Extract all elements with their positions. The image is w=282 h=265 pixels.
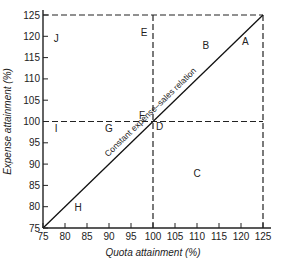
x-tick-label: 125 [255, 231, 272, 242]
x-tick-label: 110 [189, 231, 205, 242]
x-tick-label: 100 [145, 231, 162, 242]
y-tick-label: 110 [24, 73, 40, 84]
x-tick-label: 120 [233, 231, 250, 242]
region-label-b: B [202, 40, 209, 51]
x-axis-title: Quota attainment (%) [105, 247, 200, 258]
x-tick-label: 115 [211, 231, 227, 242]
y-tick-label: 95 [29, 137, 41, 148]
y-tick-label: 125 [23, 10, 40, 21]
x-tick-label: 95 [125, 231, 137, 242]
region-label-d: D [156, 121, 163, 132]
region-label-g: G [105, 123, 113, 134]
y-tick-label: 120 [23, 31, 40, 42]
diagonal-annotation: Constant expense–sales relation [103, 65, 199, 158]
y-tick-label: 100 [23, 116, 40, 127]
region-label-i: I [55, 123, 58, 134]
y-tick-label: 80 [29, 201, 41, 212]
x-tick-label: 90 [103, 231, 115, 242]
region-label-a: A [242, 36, 249, 47]
x-tick-label: 105 [167, 231, 184, 242]
y-tick-label: 85 [29, 180, 41, 191]
x-axis-ticks: 7580859095100105110115120125 [37, 223, 271, 242]
y-tick-label: 90 [29, 159, 41, 170]
y-axis-title: Expense attainment (%) [2, 68, 13, 175]
x-tick-label: 80 [59, 231, 71, 242]
y-tick-label: 75 [29, 223, 41, 234]
y-tick-label: 105 [23, 95, 40, 106]
region-label-e: E [141, 27, 148, 38]
y-axis-ticks: 7580859095100105110115120125 [23, 10, 48, 234]
chart: 7580859095100105110115120125 75808590951… [0, 0, 282, 265]
x-tick-label: 85 [81, 231, 93, 242]
region-label-c: C [193, 168, 200, 179]
y-tick-label: 115 [24, 52, 40, 63]
region-label-h: H [75, 202, 82, 213]
region-label-j: J [54, 33, 59, 44]
region-labels: ABCDEFGHIJ [54, 27, 249, 213]
